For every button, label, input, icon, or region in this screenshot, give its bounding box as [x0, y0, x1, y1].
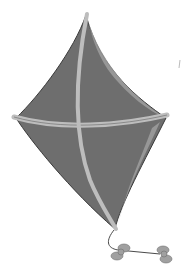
- tail-bow-1: [111, 244, 130, 260]
- tail-bow-2: [157, 246, 172, 263]
- kite-string: [108, 230, 160, 254]
- kite-illustration: [0, 0, 192, 264]
